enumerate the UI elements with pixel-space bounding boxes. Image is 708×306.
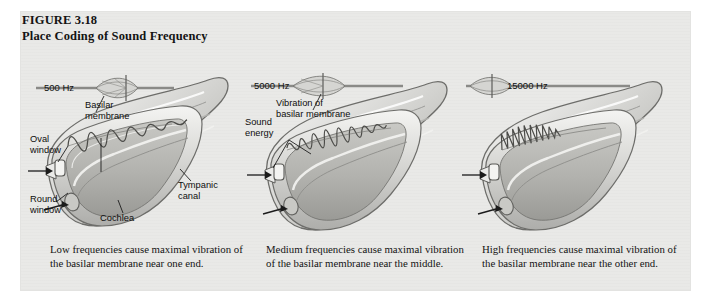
annotation-cochlea: Cochlea bbox=[100, 213, 134, 224]
frequency-label-low: 500 Hz bbox=[44, 82, 74, 93]
annotation-round-window: Round window bbox=[30, 194, 61, 216]
figure-3-18: FIGURE 3.18 Place Coding of Sound Freque… bbox=[0, 0, 708, 306]
annotation-sound-energy: Sound energy bbox=[245, 117, 273, 139]
oval-window-icon bbox=[462, 164, 499, 183]
figure-number: FIGURE 3.18 bbox=[22, 13, 442, 28]
panel-medium-frequency: 5000 Hz Vibration of energy basilar memb… bbox=[237, 50, 455, 235]
caption-low-frequency: Low frequencies cause maximal vibration … bbox=[50, 243, 250, 270]
figure-header: FIGURE 3.18 Place Coding of Sound Freque… bbox=[22, 13, 442, 44]
oval-window-icon bbox=[28, 160, 65, 179]
annotation-tympanic-canal: Tympanic canal bbox=[178, 180, 218, 202]
cochlea-diagram-medium bbox=[237, 50, 455, 235]
oval-window-icon bbox=[247, 164, 284, 183]
frequency-label-high: 15000 Hz bbox=[507, 80, 548, 91]
annotation-basilar-membrane: Basilar membrane bbox=[85, 100, 129, 122]
cochlea-diagram-high bbox=[452, 50, 670, 235]
page-title: Place Coding of Sound Frequency bbox=[22, 28, 442, 44]
caption-medium-frequency: Medium frequencies cause maximal vibrati… bbox=[266, 243, 466, 270]
caption-high-frequency: High frequencies cause maximal vibration… bbox=[482, 243, 682, 270]
annotation-oval-window: Oval window bbox=[30, 134, 61, 156]
panel-low-frequency: 500 Hz Basilar membrane Oval window Roun… bbox=[22, 50, 240, 235]
annotation-vibration-of-basilar-membrane: Vibration of energy basilar membrane bbox=[276, 98, 350, 120]
frequency-label-medium: 5000 Hz bbox=[254, 80, 289, 91]
panel-high-frequency: 15000 Hz bbox=[452, 50, 670, 235]
